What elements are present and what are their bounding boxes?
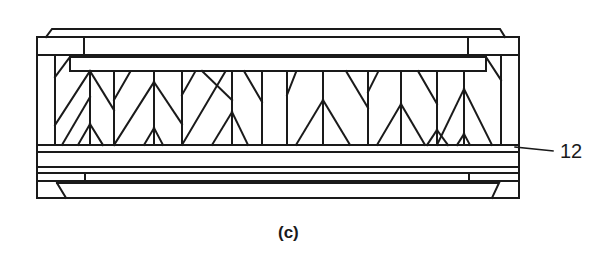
top-cap <box>46 29 505 37</box>
inner-top-chord <box>55 57 501 80</box>
bottom-rail <box>37 145 519 181</box>
truss-drawing: 12 (c) <box>0 0 612 254</box>
truss-figure: 12 (c) <box>0 0 612 254</box>
outer-top-band <box>37 37 519 55</box>
figure-caption: (c) <box>278 223 299 242</box>
callout-label: 12 <box>560 140 582 162</box>
bottom-wedge <box>37 183 519 198</box>
callout-12: 12 <box>515 140 582 162</box>
web-members <box>55 71 492 145</box>
